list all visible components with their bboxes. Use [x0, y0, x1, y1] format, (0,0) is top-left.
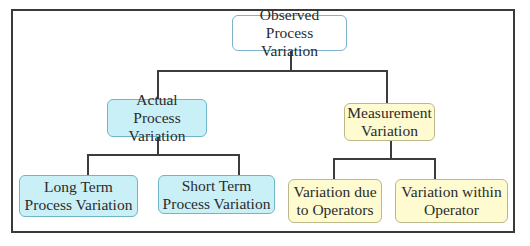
node-actual-process-variation: Actual Process Variation — [107, 99, 207, 137]
node-observed-process-variation: Observed Process Variation — [232, 15, 347, 51]
connector-to-measurement — [386, 70, 388, 104]
node-variation-within-operator: Variation within Operator — [395, 179, 508, 223]
connector-measurement-down — [390, 141, 392, 159]
connector-actual-horizontal — [87, 154, 239, 156]
node-measurement-variation: Measurement Variation — [344, 103, 435, 141]
connector-to-within-operator — [434, 158, 436, 180]
node-variation-due-to-operators: Variation due to Operators — [288, 179, 382, 223]
node-short-term-process-variation: Short Term Process Variation — [158, 175, 275, 214]
connector-to-short-term — [238, 154, 240, 176]
connector-to-operators — [333, 158, 335, 180]
node-long-term-process-variation: Long Term Process Variation — [19, 175, 138, 217]
connector-measurement-horizontal — [333, 158, 435, 160]
connector-level1-horizontal — [157, 70, 387, 72]
connector-to-long-term — [87, 154, 89, 176]
